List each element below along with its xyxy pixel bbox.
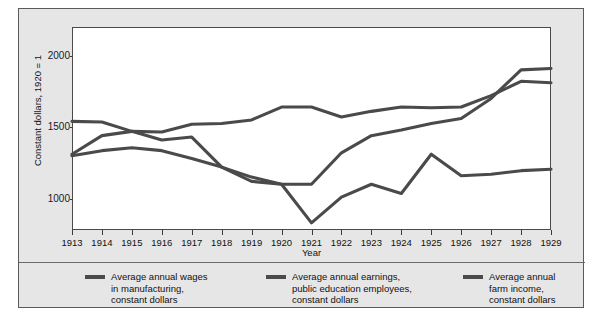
x-tick-mark-1929 (551, 230, 552, 235)
x-tick-mark-1921 (312, 230, 313, 235)
x-tick-mark-1920 (282, 230, 283, 235)
x-tick-mark-1916 (162, 230, 163, 235)
x-tick-mark-1928 (521, 230, 522, 235)
x-tick-mark-1919 (252, 230, 253, 235)
x-tick-mark-1914 (102, 230, 103, 235)
legend-item-public-education-earnings: Average annual earnings, public educatio… (266, 271, 441, 306)
x-axis-title: Year (72, 247, 551, 258)
legend-divider (19, 262, 585, 263)
x-tick-mark-1927 (491, 230, 492, 235)
x-tick-mark-1917 (192, 230, 193, 235)
x-tick-mark-1915 (132, 230, 133, 235)
legend-item-farm-income: Average annual farm income, constant dol… (463, 271, 583, 306)
series-line-public-education-earnings (72, 68, 551, 184)
chart-figure: 2000 1500 1000 Constant dollars, 1920 = … (18, 8, 584, 308)
x-tick-mark-1926 (461, 230, 462, 235)
legend-item-manufacturing-wages: Average annual wages in manufacturing, c… (85, 271, 245, 306)
legend-swatch-icon (463, 275, 483, 279)
x-tick-mark-1925 (431, 230, 432, 235)
plot-lines (72, 27, 551, 230)
x-tick-mark-1918 (222, 230, 223, 235)
legend-swatch-icon (266, 275, 286, 279)
y-axis-title: Constant dollars, 1920 = 1 (32, 31, 43, 191)
y-tick-label-1000: 1000 (36, 194, 70, 204)
chart-legend: Average annual wages in manufacturing, c… (19, 271, 585, 309)
legend-label: Average annual wages in manufacturing, c… (111, 271, 207, 306)
legend-swatch-icon (85, 275, 105, 279)
legend-label: Average annual farm income, constant dol… (489, 271, 556, 306)
chart-area: 2000 1500 1000 Constant dollars, 1920 = … (19, 9, 585, 257)
x-tick-mark-1913 (72, 230, 73, 235)
legend-label: Average annual earnings, public educatio… (292, 271, 412, 306)
x-tick-mark-1923 (371, 230, 372, 235)
x-tick-mark-1922 (341, 230, 342, 235)
x-tick-mark-1924 (401, 230, 402, 235)
